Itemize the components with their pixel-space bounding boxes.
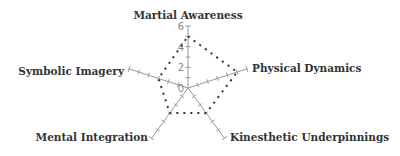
- axis-tick: [149, 136, 154, 140]
- axis-tick: [216, 128, 220, 131]
- axis-labels: Martial AwarenessPhysical DynamicsKinest…: [18, 9, 389, 143]
- radial-tick-label: 2: [178, 62, 184, 73]
- axis-label: Kinesthetic Underpinnings: [230, 131, 389, 143]
- axis-tick: [192, 95, 196, 98]
- axis-tick: [156, 128, 160, 131]
- axis-label: Physical Dynamics: [252, 62, 362, 74]
- axis-label: Martial Awareness: [133, 9, 242, 21]
- axis-tick: [210, 120, 214, 123]
- axis-tick: [162, 120, 166, 123]
- axis-label: Mental Integration: [36, 131, 149, 143]
- axis-tick: [174, 103, 178, 106]
- radial-tick-label: 6: [178, 21, 184, 32]
- axis-tick: [180, 95, 184, 98]
- axis-tick: [222, 136, 227, 140]
- axis-tick: [198, 103, 202, 106]
- radar-axes: [128, 26, 248, 140]
- radial-tick-label: 0: [178, 83, 184, 94]
- radar-chart: 0246 Martial AwarenessPhysical DynamicsK…: [0, 0, 400, 156]
- radial-tick-labels: 0246: [178, 21, 184, 94]
- axis-label: Symbolic Imagery: [18, 65, 125, 77]
